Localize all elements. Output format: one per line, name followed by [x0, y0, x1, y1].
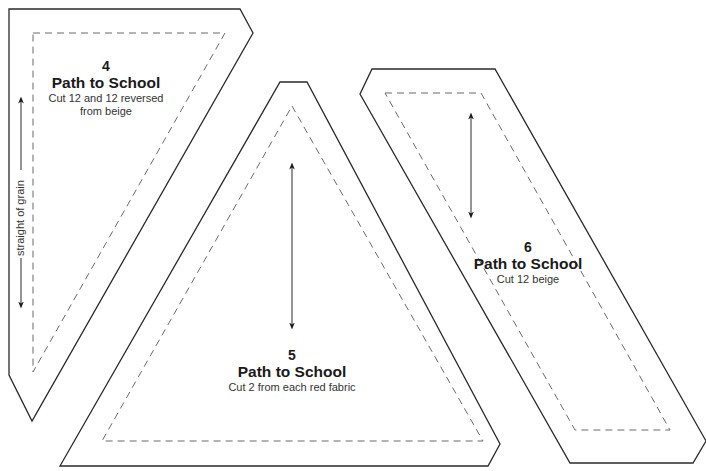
piece-4-number: 4 [49, 58, 164, 74]
piece-6-instructions: Cut 12 beige [474, 273, 583, 286]
piece-5-title: Path to School [228, 363, 355, 381]
piece-6-title: Path to School [474, 255, 583, 273]
piece-5-instructions: Cut 2 from each red fabric [228, 381, 355, 394]
piece-4-title: Path to School [49, 74, 164, 92]
straight-of-grain-label: straight of grain [14, 180, 26, 256]
piece-4-instructions-line1: Cut 12 and 12 reversed [49, 92, 164, 105]
piece-5-number: 5 [228, 347, 355, 363]
piece-4-instructions-line2: from beige [49, 105, 164, 118]
piece-5-label: 5 Path to School Cut 2 from each red fab… [228, 347, 355, 394]
piece-4-label: 4 Path to School Cut 12 and 12 reversed … [49, 58, 164, 118]
piece-6-number: 6 [474, 239, 583, 255]
piece-6-label: 6 Path to School Cut 12 beige [474, 239, 583, 286]
